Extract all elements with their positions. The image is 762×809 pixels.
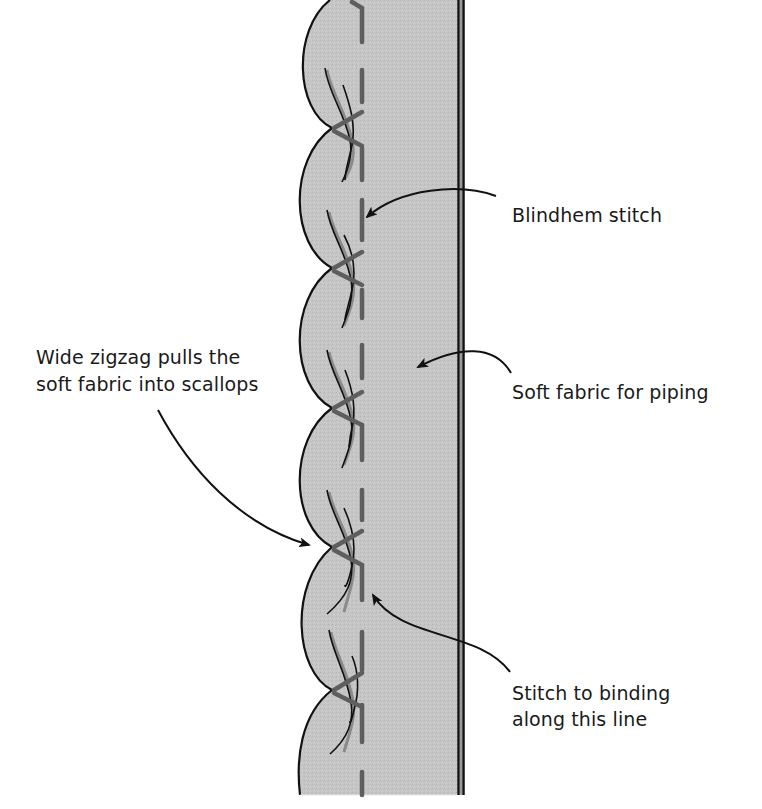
label-soft-fabric: Soft fabric for piping (512, 379, 709, 405)
label-binding-line1: Stitch to binding (512, 680, 670, 706)
label-zigzag-line1: Wide zigzag pulls the (36, 344, 240, 370)
label-zigzag-line2: soft fabric into scallops (36, 371, 258, 397)
fabric-strip (299, 0, 457, 795)
label-binding-line2: along this line (512, 706, 647, 732)
zigzag-arrow (158, 410, 309, 545)
binding-edge (459, 0, 464, 795)
label-blindhem-stitch: Blindhem stitch (512, 202, 662, 228)
diagram-canvas: Blindhem stitch Wide zigzag pulls the so… (0, 0, 762, 809)
